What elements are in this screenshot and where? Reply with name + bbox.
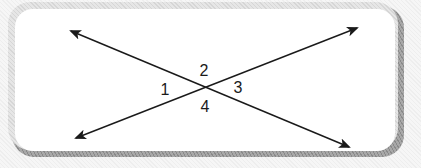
intersecting-lines-diagram: 1 2 3 4 bbox=[0, 0, 421, 168]
angle-label-4: 4 bbox=[201, 98, 210, 115]
angle-label-3: 3 bbox=[234, 79, 243, 96]
line-a bbox=[71, 31, 349, 147]
diagram-stage: 1 2 3 4 bbox=[0, 0, 421, 168]
line-b bbox=[76, 28, 357, 138]
angle-label-2: 2 bbox=[200, 62, 209, 79]
angle-label-1: 1 bbox=[161, 81, 170, 98]
